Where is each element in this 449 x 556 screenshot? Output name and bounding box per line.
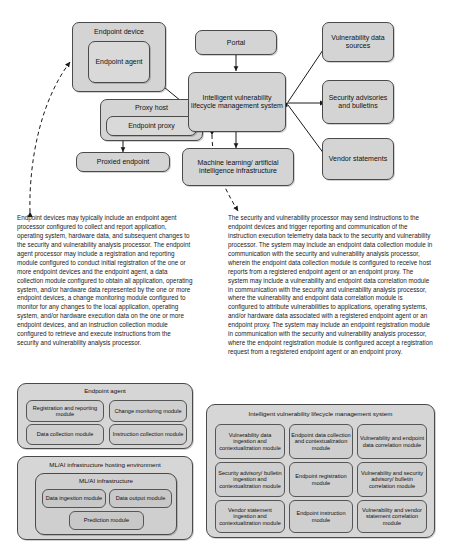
node-vulnerability-data-sources[interactable]: Vulnerability data sources bbox=[322, 22, 394, 62]
node-security-advisories-and-bulletins[interactable]: Security advisories and bulletins bbox=[322, 80, 394, 124]
module-vulnerability-security-advisory-bulletin-correlation[interactable]: Vulnerability and security advisory/ bul… bbox=[357, 462, 427, 497]
module-change-monitoring[interactable]: Change monitoring module bbox=[109, 400, 187, 422]
node-vulnerability-data-sources-label: Vulnerability data sources bbox=[325, 34, 391, 50]
node-portal-label: Portal bbox=[227, 39, 245, 47]
node-vendor-statements-label: Vendor statements bbox=[329, 155, 387, 163]
module-endpoint-data-collection-contextualization[interactable]: Endpoint data collection and contextuali… bbox=[289, 424, 353, 459]
diagram-page: Endpoint device Endpoint agent Proxy hos… bbox=[0, 0, 449, 556]
module-vulnerability-data-ingestion-contextualization[interactable]: Vulnerability data ingestion and context… bbox=[215, 424, 285, 459]
node-proxied-endpoint-label: Proxied endpoint bbox=[97, 158, 150, 166]
node-portal[interactable]: Portal bbox=[195, 30, 277, 55]
node-vendor-statements[interactable]: Vendor statements bbox=[322, 138, 394, 180]
node-proxy-host-label: Proxy host bbox=[135, 104, 168, 112]
endpoint-agent-panel: Endpoint agent Registration and reportin… bbox=[17, 383, 193, 449]
node-intelligent-vulnerability-lifecycle-management-system[interactable]: Intelligent vulnerability lifecycle mana… bbox=[188, 72, 286, 132]
node-endpoint-proxy[interactable]: Endpoint proxy bbox=[106, 116, 197, 136]
endpoint-agent-panel-title: Endpoint agent bbox=[18, 388, 192, 395]
module-data-ingestion[interactable]: Data ingestion module bbox=[42, 489, 106, 508]
node-endpoint-agent-label: Endpoint agent bbox=[95, 58, 142, 66]
ml-ai-infrastructure-title: ML/AI infrastructure bbox=[36, 478, 176, 485]
node-endpoint-proxy-label: Endpoint proxy bbox=[128, 122, 175, 130]
ml-ai-hosting-panel-title: ML/AI infrastructure hosting environment bbox=[18, 462, 192, 469]
module-vendor-statement-ingestion-contextualization[interactable]: Vendor statement ingestion and contextua… bbox=[215, 500, 285, 533]
module-endpoint-instruction[interactable]: Endpoint instruction module bbox=[289, 500, 353, 533]
node-endpoint-device-label: Endpoint device bbox=[94, 28, 144, 36]
node-endpoint-agent[interactable]: Endpoint agent bbox=[88, 41, 150, 83]
module-prediction[interactable]: Prediction module bbox=[69, 511, 144, 530]
node-security-advisories-label: Security advisories and bulletins bbox=[325, 94, 391, 110]
module-vulnerability-endpoint-data-correlation[interactable]: Vulnerability and endpoint data correlat… bbox=[357, 424, 427, 459]
node-proxied-endpoint[interactable]: Proxied endpoint bbox=[76, 152, 170, 172]
module-security-advisory-bulletin-ingestion-contextualization[interactable]: Security advisory/ bulletin ingestion an… bbox=[215, 462, 285, 497]
node-ml-ai-infrastructure[interactable]: Machine learning/ artificial intelligenc… bbox=[182, 148, 294, 186]
module-data-collection[interactable]: Data collection module bbox=[26, 424, 104, 445]
module-instruction-collection[interactable]: Instruction collection module bbox=[109, 424, 187, 445]
module-data-output[interactable]: Data output module bbox=[109, 489, 172, 508]
system-modules-panel-title: Intelligent vulnerability lifecycle mana… bbox=[207, 411, 434, 418]
module-registration-and-reporting[interactable]: Registration and reporting module bbox=[26, 400, 104, 422]
module-vulnerability-vendor-statement-correlation[interactable]: Vulnerability and vendor statement corre… bbox=[357, 500, 427, 533]
system-modules-panel: Intelligent vulnerability lifecycle mana… bbox=[206, 404, 435, 538]
module-endpoint-registration[interactable]: Endpoint registration module bbox=[289, 462, 353, 497]
right-description-paragraph: The security and vulnerability processor… bbox=[228, 214, 433, 357]
node-ml-ai-label: Machine learning/ artificial intelligenc… bbox=[185, 159, 291, 175]
node-hub-label: Intelligent vulnerability lifecycle mana… bbox=[191, 94, 283, 110]
ml-ai-hosting-environment-panel: ML/AI infrastructure hosting environment… bbox=[17, 456, 193, 540]
ml-ai-infrastructure-subpanel: ML/AI infrastructure Data ingestion modu… bbox=[35, 473, 177, 535]
left-description-paragraph: Endpoint devices may typically include a… bbox=[17, 214, 194, 348]
